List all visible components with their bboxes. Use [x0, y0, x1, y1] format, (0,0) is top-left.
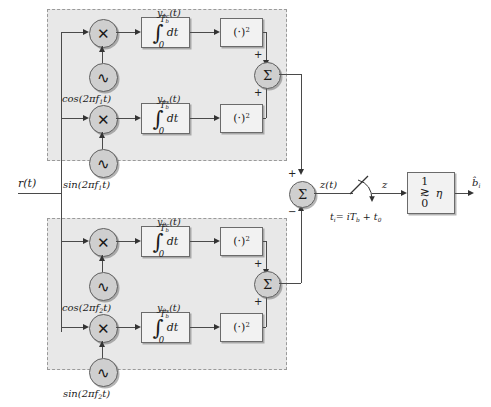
sigma-icon: Σ	[298, 187, 307, 202]
sine-wave-icon: ∿	[97, 278, 110, 296]
decision-low: 0	[421, 199, 428, 209]
integrator-f2-sin: ∫ Tb 0 dt	[141, 312, 190, 343]
wire-f1c-int-sq	[190, 32, 214, 33]
wire-f1c-sum-vert	[266, 32, 267, 60]
output-label: b̂i	[472, 178, 480, 188]
wire-f1s-mult-int	[116, 118, 135, 119]
signal-label-z: z	[382, 180, 387, 190]
wire-f2s-int-sq	[190, 327, 214, 328]
integrator-f2-cos: ∫ Tb 0 dt	[141, 226, 190, 257]
summer-f1: Σ	[254, 62, 281, 89]
integrator-f1-sin: ∫ Tb 0 dt	[141, 103, 190, 134]
sigma-icon: Σ	[263, 277, 272, 292]
summer-f2-sign-bottom: +	[254, 297, 262, 307]
sine-wave-icon: ∿	[97, 364, 110, 382]
integrator-f1-cos: ∫ Tb 0 dt	[141, 17, 190, 48]
wire-f1s-to-sum	[263, 118, 266, 119]
carrier-label-f1-sin: sin(2πf1t)	[63, 180, 110, 190]
integral-dt: dt	[167, 26, 178, 39]
carrier-label-f1-cos: cos(2πf1t)	[62, 94, 111, 104]
wire-f1c-mult-int	[116, 32, 135, 33]
integral-dt: dt	[167, 235, 178, 248]
decision-comparator: 1 ≳ 0	[420, 177, 430, 209]
input-wire	[18, 193, 61, 194]
squarer-f1-sin: (·)2	[220, 104, 263, 133]
squarer-f2-cos: (·)2	[220, 227, 263, 256]
squarer-f2-sin: (·)2	[220, 313, 263, 342]
wire-f1-to-main	[301, 74, 302, 169]
integral-dt: dt	[167, 321, 178, 334]
integral-icon: ∫ Tb 0	[153, 316, 164, 340]
threshold-label: η	[436, 187, 443, 200]
sine-wave-icon: ∿	[97, 69, 110, 87]
carrier-label-f2-sin: sin(2πf2t)	[63, 389, 110, 399]
integral-lower-limit: 0	[159, 40, 164, 50]
multiply-icon: ✕	[97, 111, 110, 129]
oscillator-f1-cos: ∿	[89, 63, 118, 92]
wire-f2c-mult-int	[116, 241, 135, 242]
squarer-label: (·)2	[233, 235, 249, 248]
integral-icon: ∫ Tb 0	[153, 107, 164, 131]
arrow-osc-f1-sin	[99, 132, 105, 138]
summer-f2-sign-top: +	[254, 259, 262, 269]
squarer-label: (·)2	[233, 112, 249, 125]
oscillator-f2-cos: ∿	[89, 272, 118, 301]
wire-f2s-sum-vert	[266, 297, 267, 327]
summer-f1-sign-top: +	[254, 50, 262, 60]
multiplier-f2-sin: ✕	[89, 314, 118, 343]
sine-wave-icon: ∿	[97, 155, 110, 173]
integral-lower-limit: 0	[159, 126, 164, 136]
wire-f1s-int-sq	[190, 118, 214, 119]
wire-f2-to-main	[301, 211, 302, 283]
wire-f2s-mult-int	[116, 327, 135, 328]
input-label: r(t)	[18, 178, 36, 189]
arrow-osc-f2-cos	[99, 255, 105, 261]
decision-device: 1 ≳ 0 η	[407, 172, 455, 214]
wire-f2s-to-sum	[263, 327, 266, 328]
integral-dt: dt	[167, 112, 178, 125]
squarer-label: (·)2	[233, 321, 249, 334]
wire-f1s-in	[61, 118, 83, 119]
multiply-icon: ✕	[97, 320, 110, 338]
multiply-icon: ✕	[97, 25, 110, 43]
integral-lower-limit: 0	[159, 249, 164, 259]
signal-label-y1s: y1s(t)	[157, 94, 180, 104]
sampler-time-label: ti= iTb + t0	[330, 212, 381, 222]
arrow-osc-f2-sin	[99, 341, 105, 347]
oscillator-f1-sin: ∿	[89, 149, 118, 178]
integral-lower-limit: 0	[159, 335, 164, 345]
summer-main-sign-top: +	[288, 169, 296, 179]
multiplier-f2-cos: ✕	[89, 228, 118, 257]
input-bus-vertical	[61, 32, 62, 332]
multiplier-f1-cos: ✕	[89, 19, 118, 48]
wire-f2c-sum-vert	[266, 241, 267, 269]
signal-label-y2s: y2s(t)	[157, 303, 180, 313]
oscillator-f2-sin: ∿	[89, 358, 118, 387]
summer-main: Σ	[289, 181, 316, 208]
signal-label-y2c: y2c(t)	[157, 217, 181, 227]
summer-main-sign-bottom: −	[288, 207, 296, 217]
signal-label-y1c: y1c(t)	[157, 8, 181, 18]
wire-f2s-in	[61, 327, 83, 328]
wire-f1s-sum-vert	[266, 88, 267, 118]
summer-f2: Σ	[254, 271, 281, 298]
integral-icon: ∫ Tb 0	[153, 21, 164, 45]
sampler-arc-icon	[356, 180, 378, 204]
sigma-icon: Σ	[263, 68, 272, 83]
integral-icon: ∫ Tb 0	[153, 230, 164, 254]
signal-label-zt: z(t)	[320, 180, 337, 190]
fsk-receiver-diagram: r(t) ✕ ∫ Tb 0 dt y1c(t) (·)2 ∿ cos(2πf1t…	[0, 0, 491, 407]
wire-z-sampled	[372, 193, 401, 194]
wire-f2c-in	[61, 241, 83, 242]
carrier-label-f2-cos: cos(2πf2t)	[62, 303, 111, 313]
wire-f2-sum-out	[279, 283, 301, 284]
multiply-icon: ✕	[97, 234, 110, 252]
arrow-main-sum-top	[298, 169, 304, 175]
squarer-label: (·)2	[233, 26, 249, 39]
arrow-osc-f1-cos	[99, 46, 105, 52]
squarer-f1-cos: (·)2	[220, 18, 263, 47]
wire-f2c-int-sq	[190, 241, 214, 242]
summer-f1-sign-bottom: +	[254, 88, 262, 98]
multiplier-f1-sin: ✕	[89, 105, 118, 134]
arrow-output	[468, 190, 474, 196]
